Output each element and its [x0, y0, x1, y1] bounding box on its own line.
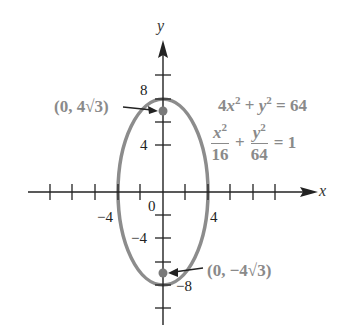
x-tick-label-neg4: −4 [97, 210, 113, 225]
y-tick-label-neg4: −4 [131, 231, 147, 246]
x-tick-label-4: 4 [210, 210, 218, 225]
pointer-arrowhead-bottom-icon [168, 268, 178, 277]
y-tick-label-8: 8 [140, 83, 148, 98]
pointer-arrowhead-top-icon [148, 106, 158, 114]
focus-point-bottom [159, 269, 168, 278]
y-tick-label-neg8: −8 [176, 279, 192, 294]
fraction-x: x2 16 [211, 122, 229, 163]
equation-standard: x2 16 + y2 64 = 1 [211, 122, 296, 163]
chart-plot-area [0, 0, 347, 334]
fraction-y: y2 64 [251, 122, 268, 163]
x-axis-label: x [319, 183, 326, 199]
focus-label-bottom: (0, −4√3) [207, 262, 271, 279]
y-axis-label: y [157, 18, 164, 34]
pointer-arrow-top [123, 107, 152, 110]
ellipse-chart: y x 8 4 −4 −8 0 −4 4 (0, 4√3) (0, −4√3) … [0, 0, 347, 334]
origin-label: 0 [148, 199, 156, 214]
focus-point-top [159, 107, 168, 116]
focus-label-top: (0, 4√3) [54, 98, 109, 115]
y-tick-label-4: 4 [140, 138, 148, 153]
equation-general: 4x2 + y2 = 64 [218, 95, 307, 114]
